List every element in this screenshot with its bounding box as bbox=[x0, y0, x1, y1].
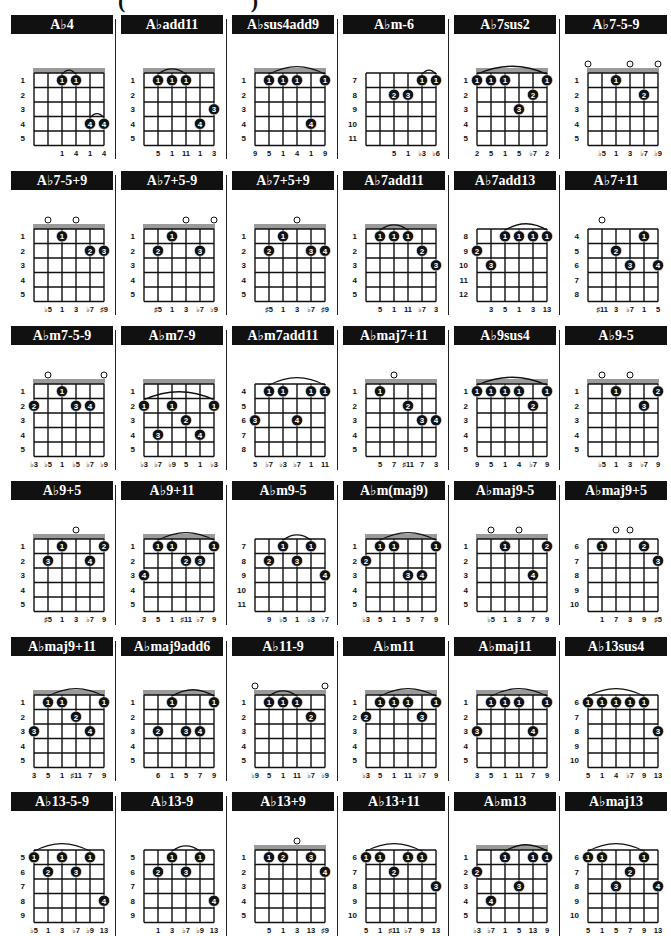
finger-number: 1 bbox=[489, 76, 494, 85]
fret-number: 5 bbox=[575, 134, 580, 143]
interval-label: 9 bbox=[475, 460, 479, 469]
interval-label: ♭7 bbox=[321, 615, 329, 624]
finger-number: 3 bbox=[184, 727, 189, 736]
open-string-icon bbox=[73, 527, 79, 533]
fret-number: 8 bbox=[575, 290, 580, 299]
interval-label: 3 bbox=[32, 771, 36, 780]
interval-label: ♭5 bbox=[30, 926, 38, 935]
interval-label: 9 bbox=[642, 926, 646, 935]
interval-label: 7 bbox=[531, 615, 535, 624]
interval-label: 5 bbox=[586, 926, 590, 935]
finger-number: 3 bbox=[212, 105, 217, 114]
chord-diagram: 6789101112345157913 bbox=[561, 782, 671, 936]
fret-number: 2 bbox=[21, 247, 26, 256]
interval-label: ♭3 bbox=[307, 615, 315, 624]
finger-number: 1 bbox=[545, 76, 550, 85]
interval-label: 9 bbox=[212, 771, 216, 780]
finger-number: 2 bbox=[656, 387, 661, 396]
interval-label: 13 bbox=[654, 771, 662, 780]
interval-label: 1 bbox=[517, 305, 521, 314]
finger-number: 2 bbox=[531, 91, 536, 100]
interval-label: 3 bbox=[295, 305, 299, 314]
interval-label: 3 bbox=[614, 305, 618, 314]
chord-diagram: 1234511143511113 bbox=[117, 5, 228, 160]
finger-number: 1 bbox=[545, 853, 550, 862]
fret-number: 1 bbox=[21, 698, 26, 707]
fret-number: 1 bbox=[131, 76, 136, 85]
open-string-icon bbox=[585, 61, 591, 67]
chord-cell: A♭7sus2123451111232515♭72 bbox=[450, 5, 561, 160]
fret-number: 4 bbox=[21, 120, 26, 129]
fret-number: 7 bbox=[242, 431, 247, 440]
finger-number: 4 bbox=[323, 247, 328, 256]
fret-number: 11 bbox=[238, 600, 247, 609]
finger-number: 3 bbox=[420, 713, 425, 722]
fret-number: 8 bbox=[575, 727, 580, 736]
fret-number: 2 bbox=[353, 247, 358, 256]
fret-number: 5 bbox=[131, 134, 136, 143]
interval-label: 1 bbox=[156, 926, 160, 935]
interval-label: 1 bbox=[503, 460, 507, 469]
interval-label: 5 bbox=[378, 771, 382, 780]
interval-label: 1 bbox=[198, 149, 202, 158]
fret-number: 8 bbox=[131, 897, 136, 906]
interval-label: 13 bbox=[432, 926, 440, 935]
fret-number: 4 bbox=[575, 232, 580, 241]
interval-label: 3 bbox=[60, 926, 64, 935]
interval-label: 7 bbox=[88, 771, 92, 780]
column-divider bbox=[559, 796, 560, 936]
interval-label: ♭3 bbox=[279, 460, 287, 469]
chord-cell: A♭11-9123451112♭95111♭7♭9 bbox=[228, 627, 339, 782]
finger-number: 1 bbox=[406, 232, 411, 241]
finger-number: 4 bbox=[88, 402, 93, 411]
finger-number: 3 bbox=[406, 571, 411, 580]
fret-number: 8 bbox=[353, 882, 358, 891]
finger-number: 1 bbox=[642, 698, 647, 707]
chord-cell: A♭9sus4123451111129514♭79 bbox=[450, 316, 561, 471]
interval-label: ♭5 bbox=[598, 460, 606, 469]
finger-number: 1 bbox=[392, 542, 397, 551]
finger-number: 1 bbox=[586, 698, 591, 707]
finger-number: 1 bbox=[642, 853, 647, 862]
fret-number: 3 bbox=[353, 727, 358, 736]
finger-number: 1 bbox=[281, 232, 286, 241]
fret-number: 4 bbox=[353, 742, 358, 751]
column-divider bbox=[559, 485, 560, 625]
interval-label: 5 bbox=[489, 460, 493, 469]
column-divider bbox=[448, 330, 449, 470]
interval-label: ♯11 bbox=[388, 926, 400, 935]
fret-number: 3 bbox=[131, 105, 136, 114]
finger-number: 1 bbox=[628, 698, 633, 707]
interval-label: 9 bbox=[267, 615, 271, 624]
column-divider bbox=[337, 485, 338, 625]
interval-label: 7 bbox=[628, 926, 632, 935]
fret-number: 8 bbox=[464, 232, 469, 241]
interval-label: ♯5 bbox=[154, 305, 162, 314]
finger-number: 4 bbox=[323, 571, 328, 580]
chord-diagram: 12345123457♯1173 bbox=[339, 316, 450, 471]
fret-number: 4 bbox=[131, 742, 136, 751]
fret-number: 3 bbox=[464, 105, 469, 114]
finger-number: 3 bbox=[656, 727, 661, 736]
finger-number: 1 bbox=[434, 76, 439, 85]
interval-label: 1 bbox=[309, 460, 313, 469]
fret-number: 5 bbox=[21, 853, 26, 862]
fret-number: 9 bbox=[353, 897, 358, 906]
finger-number: 3 bbox=[32, 727, 37, 736]
fret-number: 5 bbox=[21, 134, 26, 143]
chord-cell: A♭13-5-956789111234♭513♭7♭913 bbox=[7, 782, 118, 936]
interval-label: 3 bbox=[517, 615, 521, 624]
finger-number: 1 bbox=[156, 542, 161, 551]
open-string-icon bbox=[599, 217, 605, 223]
column-divider bbox=[115, 19, 116, 159]
interval-label: 5 bbox=[267, 926, 271, 935]
interval-label: 3 bbox=[489, 305, 493, 314]
finger-number: 2 bbox=[267, 247, 272, 256]
fret-number: 3 bbox=[21, 416, 26, 425]
finger-number: 2 bbox=[184, 557, 189, 566]
interval-label: 9 bbox=[434, 771, 438, 780]
finger-number: 1 bbox=[74, 76, 79, 85]
fret-number: 3 bbox=[353, 416, 358, 425]
fret-number: 7 bbox=[575, 868, 580, 877]
chord-cell: A♭41234511441414 bbox=[7, 5, 118, 160]
